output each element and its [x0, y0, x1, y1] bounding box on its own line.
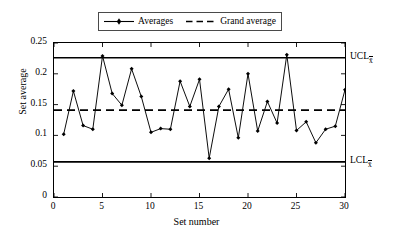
ucl-label: UCL: [350, 51, 369, 61]
x-axis-title: Set number: [0, 216, 393, 227]
y-axis-title: Set average: [17, 49, 28, 135]
plot-area: [53, 42, 346, 198]
legend-label-grand-average: Grand average: [220, 17, 276, 27]
x-tick-label: 10: [135, 202, 165, 212]
legend-item-averages: Averages: [104, 17, 173, 27]
lcl-subscript: x̄: [368, 161, 372, 169]
y-tick-label: 0.05: [0, 160, 47, 170]
ucl-subscript: x̄: [369, 57, 373, 65]
legend-line-marker-icon: [104, 17, 134, 26]
x-tick-label: 15: [184, 202, 214, 212]
legend-item-grand-average: Grand average: [186, 17, 276, 27]
data-series-averages: [62, 53, 345, 160]
axis-ticks: [54, 43, 345, 197]
x-tick-label: 25: [281, 202, 311, 212]
ucl-annotation: UCLx̄: [350, 52, 373, 63]
x-tick-label: 5: [87, 202, 117, 212]
lcl-label: LCL: [350, 155, 368, 165]
chart-legend: Averages Grand average: [98, 12, 282, 31]
y-tick-label: 0: [0, 191, 47, 201]
y-tick-label: 0.25: [0, 37, 47, 47]
legend-dashed-line-icon: [186, 17, 216, 26]
legend-label-averages: Averages: [138, 17, 173, 27]
reference-lines: [54, 58, 345, 162]
x-tick-label: 20: [232, 202, 262, 212]
lcl-annotation: LCLx̄: [350, 156, 372, 167]
x-tick-label: 0: [38, 202, 68, 212]
chart-figure: Averages Grand average 00.050.10.150.20.…: [0, 0, 393, 234]
chart-canvas: [54, 43, 345, 197]
x-tick-label: 30: [329, 202, 359, 212]
